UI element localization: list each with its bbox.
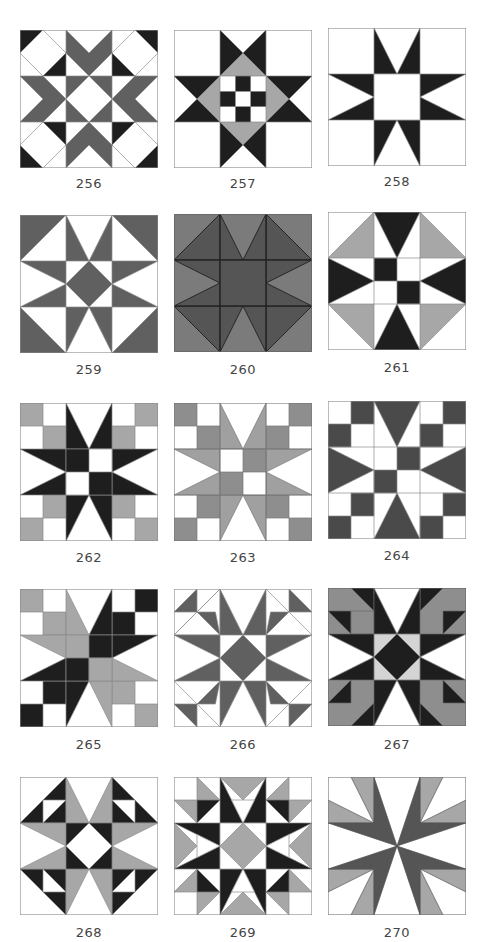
quilt-block-263 (174, 403, 312, 541)
quilt-block-261 (328, 212, 466, 350)
quilt-block-267 (328, 588, 466, 726)
quilt-block-256 (20, 30, 158, 168)
quilt-block-258 (328, 28, 466, 166)
block-number: 262 (20, 550, 158, 565)
quilt-block-262 (20, 403, 158, 541)
block-number: 260 (174, 362, 312, 377)
quilt-block-270 (328, 777, 466, 915)
block-number: 267 (328, 737, 466, 752)
quilt-block-259 (20, 215, 158, 353)
quilt-block-266 (174, 589, 312, 727)
block-number: 256 (20, 176, 158, 191)
quilt-block-265 (20, 589, 158, 727)
block-number: 257 (174, 176, 312, 191)
quilt-block-269 (174, 777, 312, 915)
block-number: 268 (20, 925, 158, 940)
block-number: 263 (174, 550, 312, 565)
quilt-block-264 (328, 401, 466, 539)
block-number: 266 (174, 737, 312, 752)
block-number: 261 (328, 360, 466, 375)
block-number: 265 (20, 737, 158, 752)
quilt-block-268 (20, 777, 158, 915)
block-number: 258 (328, 174, 466, 189)
quilt-block-260 (174, 214, 312, 352)
quilt-block-257 (174, 30, 312, 168)
block-number: 259 (20, 362, 158, 377)
block-number: 269 (174, 925, 312, 940)
block-number: 270 (328, 925, 466, 940)
block-number: 264 (328, 548, 466, 563)
